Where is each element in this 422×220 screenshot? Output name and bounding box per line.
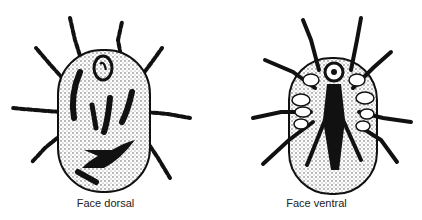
caption-dorsal: Face dorsal xyxy=(0,197,211,209)
mite-dorsal-illustration xyxy=(0,0,211,200)
caption-ventral: Face ventral xyxy=(211,197,422,209)
mite-ventral-illustration xyxy=(211,0,422,200)
figure-ventral: Face ventral xyxy=(211,0,422,220)
figure-dorsal: Face dorsal xyxy=(0,0,211,220)
